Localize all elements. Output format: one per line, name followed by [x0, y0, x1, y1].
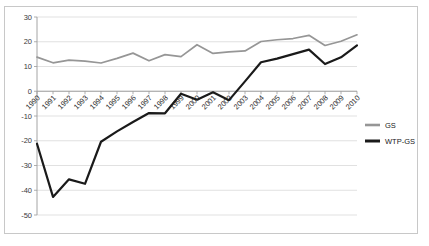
- gridlines: 3020100-10-20-30-40-50: [21, 13, 357, 220]
- y-axis-tick-label: -20: [21, 136, 32, 145]
- chart-container: 3020100-10-20-30-40-50199019911992199319…: [4, 6, 418, 234]
- legend-label-gs: GS: [385, 121, 396, 130]
- y-axis-tick-label: 0: [28, 87, 32, 96]
- x-axis-tick-label: 2007: [296, 93, 314, 111]
- y-axis-tick-label: 30: [24, 13, 32, 22]
- chart-legend: GSWTP-GS: [365, 121, 415, 146]
- x-axis-tick-label: 2004: [248, 93, 266, 111]
- x-axis-tick-label: 2006: [280, 93, 298, 111]
- legend-label-wtp-gs: WTP-GS: [385, 137, 415, 146]
- x-axis-tick-label: 2003: [232, 93, 250, 111]
- x-axis-tick-label: 1993: [72, 93, 90, 111]
- y-axis-tick-label: 20: [24, 37, 32, 46]
- y-axis-tick-label: -50: [21, 211, 32, 220]
- x-axis: 1990199119921993199419951996199719981999…: [24, 91, 362, 111]
- x-axis-tick-label: 2010: [344, 93, 362, 111]
- x-axis-tick-label: 2005: [264, 93, 282, 111]
- x-axis-tick-label: 1990: [24, 93, 42, 111]
- x-axis-tick-label: 1994: [88, 93, 106, 111]
- x-axis-tick-label: 1999: [168, 93, 186, 111]
- x-axis-tick-label: 1996: [120, 93, 138, 111]
- x-axis-tick-label: 1998: [152, 93, 170, 111]
- y-axis-tick-label: -10: [21, 112, 32, 121]
- x-axis-tick-label: 2008: [312, 93, 330, 111]
- x-axis-tick-label: 2009: [328, 93, 346, 111]
- y-axis-tick-label: -40: [21, 186, 32, 195]
- chart-plot-wrapper: 3020100-10-20-30-40-50199019911992199319…: [5, 7, 419, 235]
- x-axis-tick-label: 1991: [40, 93, 58, 111]
- x-axis-tick-label: 1997: [136, 93, 154, 111]
- line-chart: 3020100-10-20-30-40-50199019911992199319…: [5, 7, 419, 235]
- y-axis-tick-label: -30: [21, 161, 32, 170]
- y-axis-tick-label: 10: [24, 62, 32, 71]
- series-line-wtp-gs: [37, 45, 357, 196]
- x-axis-tick-label: 1995: [104, 93, 122, 111]
- x-axis-tick-label: 1992: [56, 93, 74, 111]
